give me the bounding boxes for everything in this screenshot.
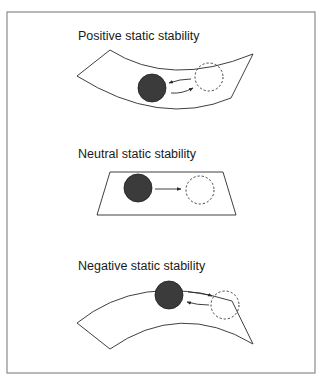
ball-icon	[155, 281, 183, 309]
panel-title-neutral: Neutral static stability	[78, 147, 197, 161]
stability-figure: Positive static stability Neutral static…	[0, 0, 323, 380]
ball-icon	[124, 174, 152, 202]
flat-surface	[97, 172, 236, 215]
panel-title-negative: Negative static stability	[78, 259, 206, 273]
panel-title-positive: Positive static stability	[78, 29, 200, 43]
ball-icon	[138, 74, 166, 102]
